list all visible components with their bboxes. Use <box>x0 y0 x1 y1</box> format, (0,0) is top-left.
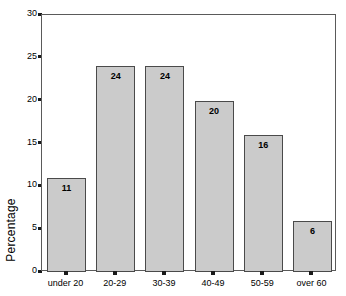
bar-value-label: 11 <box>48 183 85 193</box>
bar-value-label: 24 <box>146 71 183 81</box>
y-axis-title: Percentage <box>0 0 22 271</box>
x-axis-tick-label: 40-49 <box>202 278 225 288</box>
x-axis-tick-mark <box>162 271 166 275</box>
y-axis-tick-label: 10 <box>27 179 37 189</box>
x-axis-tick-label: 20-29 <box>103 278 126 288</box>
x-axis-tick-mark <box>260 271 264 275</box>
bar[interactable]: 6 <box>293 221 332 272</box>
x-axis-tick-mark <box>211 271 215 275</box>
x-axis-tick-label: 50-59 <box>251 278 274 288</box>
bar[interactable]: 16 <box>244 135 283 272</box>
x-axis-tick-mark <box>64 271 68 275</box>
y-axis-tick-label: 20 <box>27 94 37 104</box>
y-axis-tick-label: 5 <box>32 222 37 232</box>
y-axis-tick-label: 25 <box>27 51 37 61</box>
y-axis-tick-label: 30 <box>27 8 37 18</box>
y-axis-tick-label: 15 <box>27 137 37 147</box>
x-axis-tick-mark <box>309 271 313 275</box>
y-axis-title-label: Percentage <box>4 198 18 261</box>
x-axis-tick-label: 30-39 <box>152 278 175 288</box>
bar-value-label: 16 <box>245 140 282 150</box>
bar-value-label: 6 <box>294 226 331 236</box>
x-axis-tick-label: under 20 <box>48 278 84 288</box>
bar-value-label: 24 <box>97 71 134 81</box>
plot-area: 11242420166 <box>41 14 336 271</box>
bar-value-label: 20 <box>196 106 233 116</box>
y-axis-tick-label: 0 <box>32 265 37 275</box>
x-axis-tick-label: over 60 <box>296 278 326 288</box>
bar[interactable]: 24 <box>96 66 135 272</box>
x-axis-tick-mark <box>113 271 117 275</box>
bar[interactable]: 24 <box>145 66 184 272</box>
bar-chart: Percentage 051015202530 11242420166 unde… <box>0 0 346 296</box>
bar[interactable]: 20 <box>195 101 234 272</box>
bar[interactable]: 11 <box>47 178 86 272</box>
